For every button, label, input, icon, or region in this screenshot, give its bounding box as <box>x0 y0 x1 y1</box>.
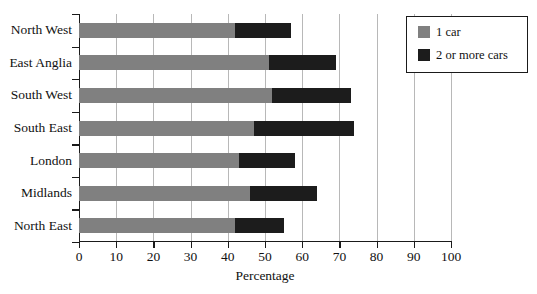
bar-segment <box>272 88 350 103</box>
x-tick-label: 40 <box>213 249 243 264</box>
x-axis-title: Percentage <box>79 268 451 284</box>
legend-swatch-icon <box>418 26 430 38</box>
legend-label: 2 or more cars <box>436 48 508 62</box>
bar-row <box>0 88 537 103</box>
stacked-bar-chart: North WestEast AngliaSouth WestSouth Eas… <box>0 0 537 294</box>
y-tick <box>72 209 79 210</box>
legend-swatch-icon <box>418 49 430 61</box>
bar-segment <box>250 186 317 201</box>
y-tick <box>72 177 79 178</box>
bar-segment <box>79 55 269 70</box>
legend-label: 1 car <box>436 25 461 39</box>
bar-row <box>0 218 537 233</box>
bar-segment <box>239 153 295 168</box>
bar-row <box>0 121 537 136</box>
x-tick <box>153 242 154 248</box>
y-tick <box>72 144 79 145</box>
y-tick <box>72 242 79 243</box>
bar-segment <box>254 121 354 136</box>
bar-segment <box>235 23 291 38</box>
x-tick-label: 90 <box>399 249 429 264</box>
x-tick <box>191 242 192 248</box>
x-tick <box>265 242 266 248</box>
x-tick <box>339 242 340 248</box>
bar-segment <box>269 55 336 70</box>
y-tick <box>72 79 79 80</box>
bar-row <box>0 186 537 201</box>
x-tick-label: 60 <box>287 249 317 264</box>
bar-segment <box>79 88 272 103</box>
x-tick-label: 100 <box>436 249 466 264</box>
x-tick-label: 70 <box>324 249 354 264</box>
y-tick <box>72 14 79 15</box>
bar-segment <box>235 218 283 233</box>
bar-segment <box>79 23 235 38</box>
x-tick-label: 0 <box>64 249 94 264</box>
bar-segment <box>79 218 235 233</box>
bar-segment <box>79 121 254 136</box>
x-tick <box>79 242 80 248</box>
legend: 1 car 2 or more cars <box>406 16 528 73</box>
x-tick-label: 10 <box>101 249 131 264</box>
x-tick-label: 50 <box>250 249 280 264</box>
legend-item-2-or-more-cars: 2 or more cars <box>418 48 508 62</box>
bar-segment <box>79 186 250 201</box>
x-tick <box>116 242 117 248</box>
bar-segment <box>79 153 239 168</box>
y-tick <box>72 112 79 113</box>
x-tick-label: 30 <box>176 249 206 264</box>
x-tick-label: 80 <box>362 249 392 264</box>
y-tick <box>72 47 79 48</box>
x-tick-label: 20 <box>138 249 168 264</box>
x-tick <box>451 242 452 248</box>
x-tick <box>414 242 415 248</box>
x-tick <box>377 242 378 248</box>
x-tick <box>228 242 229 248</box>
x-tick <box>302 242 303 248</box>
legend-item-1-car: 1 car <box>418 25 461 39</box>
bar-row <box>0 153 537 168</box>
